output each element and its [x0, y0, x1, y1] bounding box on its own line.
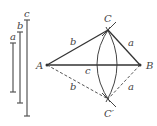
arc-tick-C — [102, 22, 116, 36]
edge-BC-prime-label: a — [128, 81, 134, 92]
edge-BC — [108, 30, 140, 65]
edge-AB-label: c — [85, 65, 91, 76]
point-B-dot — [139, 64, 142, 67]
point-B-label: B — [145, 60, 153, 71]
point-A-dot — [46, 64, 49, 67]
triangle-construction-diagram: a b c A B C C′ — [0, 0, 157, 126]
edge-BC-prime — [108, 65, 140, 99]
point-C-prime-label: C′ — [104, 108, 115, 119]
segment-c-label: c — [24, 8, 30, 19]
point-A-label: A — [35, 60, 43, 71]
point-C-label: C — [104, 13, 112, 24]
given-segment-c: c — [24, 8, 30, 116]
arc-tick-C-prime — [102, 93, 116, 107]
edge-AC-label: b — [70, 36, 76, 47]
given-segment-a: a — [10, 31, 16, 92]
edge-AC — [47, 30, 108, 65]
edge-AC-prime-label: b — [70, 81, 76, 92]
given-segment-b: b — [17, 20, 23, 103]
edge-AC-prime — [47, 65, 108, 99]
segment-a-label: a — [10, 31, 16, 42]
segment-b-label: b — [17, 20, 23, 31]
edge-BC-label: a — [128, 37, 134, 48]
